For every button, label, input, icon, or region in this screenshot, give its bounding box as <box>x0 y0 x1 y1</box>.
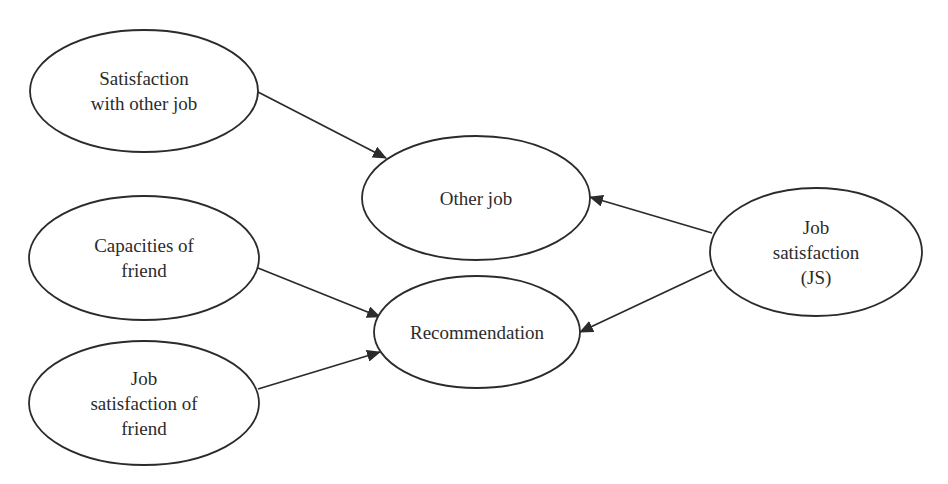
arrow-job-satisfaction-to-recommendation <box>580 270 712 332</box>
node-label-job-satisfaction: Job satisfaction (JS) <box>710 188 922 316</box>
path-diagram: Satisfaction with other job Other job Ca… <box>0 0 948 484</box>
node-label-other-job: Other job <box>362 136 590 260</box>
node-label-job-satisfaction-friend: Job satisfaction of friend <box>29 341 259 465</box>
node-label-recommendation: Recommendation <box>374 276 580 388</box>
arrow-job-satisfaction-friend-to-recommendation <box>258 352 380 389</box>
node-label-satisfaction-other-job: Satisfaction with other job <box>30 30 258 152</box>
node-label-capacities-friend: Capacities of friend <box>29 196 259 320</box>
arrow-job-satisfaction-to-other-job <box>590 197 712 233</box>
arrow-capacities-friend-to-recommendation <box>258 268 380 317</box>
